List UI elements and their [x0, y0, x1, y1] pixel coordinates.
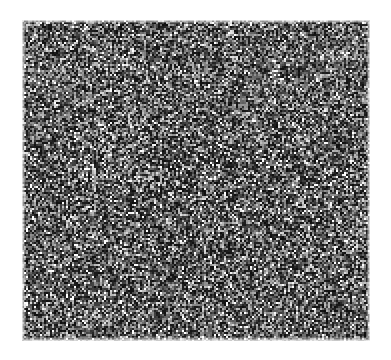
- noise-texture-figure: [22, 20, 370, 341]
- noise-texture-canvas: [22, 20, 370, 341]
- page-root: Grayscale Random-Dot Noise Texture: [0, 0, 391, 360]
